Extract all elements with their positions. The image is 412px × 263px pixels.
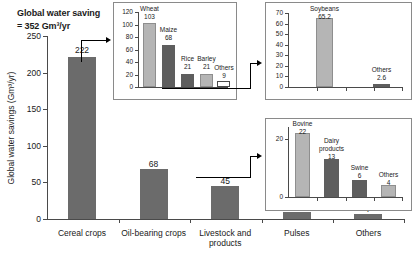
connector-cereal-vertical bbox=[81, 40, 82, 62]
oil-inset-ticklabel-0: 0 bbox=[279, 84, 283, 91]
main-y-ticklabel-150: 150 bbox=[27, 105, 41, 114]
main-y-ticklabel-50: 50 bbox=[32, 178, 41, 187]
main-value-oil-bearing-crops: 68 bbox=[149, 159, 158, 169]
livestock-inset-x-tick-2 bbox=[346, 198, 347, 201]
main-category-cereal-crops: Cereal crops bbox=[58, 228, 106, 238]
main-bar-pulses bbox=[283, 212, 311, 219]
oil-inset-ticklabel-20: 20 bbox=[276, 63, 283, 70]
cereal-inset-bar-barley bbox=[200, 74, 213, 87]
main-category-pulses: Pulses bbox=[284, 228, 310, 238]
oil-inset-tick-0 bbox=[285, 87, 288, 88]
main-y-tick-250 bbox=[43, 36, 47, 37]
livestock-inset-x-tick-4 bbox=[402, 198, 403, 201]
oil-inset-ticklabel-70: 70 bbox=[276, 10, 283, 17]
main-category-oil-bearing-crops: Oil-bearing crops bbox=[121, 228, 186, 238]
connector-oil-horizontal bbox=[162, 88, 250, 89]
livestock-and-products-inset: 0 20 Bovine 22 Dairy products 13 bbox=[265, 118, 412, 211]
connector-cereal-arrowhead bbox=[106, 37, 111, 43]
oil-inset-x-tick-2 bbox=[346, 88, 347, 91]
oil-inset-x-tick-3 bbox=[374, 88, 375, 91]
cereal-inset-tick-40 bbox=[135, 62, 138, 63]
livestock-inset-label-dairy-products: Dairy products 13 bbox=[319, 137, 344, 161]
livestock-inset-x-tick-1 bbox=[317, 198, 318, 201]
main-y-axis bbox=[47, 36, 48, 220]
oil-inset-tick-20 bbox=[285, 66, 288, 67]
connector-oil-arrowhead bbox=[257, 60, 262, 66]
oil-bearing-crops-inset-plot: 0 10 20 30 40 50 60 70 Soybeans bbox=[288, 13, 403, 91]
livestock-and-products-inset-plot: 0 20 Bovine 22 Dairy products 13 bbox=[288, 127, 403, 201]
livestock-inset-tick-20 bbox=[285, 139, 288, 140]
connector-livestock-arrowhead bbox=[257, 153, 262, 159]
cereal-inset-tick-0 bbox=[135, 87, 138, 88]
oil-inset-tick-60 bbox=[285, 24, 288, 25]
oil-inset-bar-soybeans bbox=[316, 18, 333, 87]
oil-inset-tick-50 bbox=[285, 34, 288, 35]
oil-inset-tick-10 bbox=[285, 76, 288, 77]
main-y-ticklabel-250: 250 bbox=[27, 32, 41, 41]
livestock-inset-label-bovine: Bovine 22 bbox=[293, 120, 313, 136]
main-y-axis-label: Global water savings (Gm³/yr) bbox=[6, 72, 16, 185]
livestock-inset-y-axis bbox=[288, 127, 289, 197]
oil-inset-bar-others bbox=[373, 84, 390, 87]
livestock-inset-label-others: Others 4 bbox=[379, 171, 399, 187]
cereal-inset-tick-20 bbox=[135, 75, 138, 76]
main-y-ticklabel-100: 100 bbox=[27, 142, 41, 151]
main-value-cereal-crops: 222 bbox=[75, 45, 89, 55]
cereal-inset-tick-60 bbox=[135, 50, 138, 51]
main-x-tick-4 bbox=[333, 220, 334, 223]
main-x-axis bbox=[47, 219, 405, 220]
main-bar-oil-bearing-crops bbox=[140, 169, 168, 219]
main-y-tick-50 bbox=[43, 182, 47, 183]
oil-inset-ticklabel-40: 40 bbox=[276, 41, 283, 48]
oil-inset-label-soybeans: Soybeans 65.2 bbox=[310, 5, 339, 21]
cereal-crops-inset-plot: 0 20 40 60 80 100 120 Wheat 103 bbox=[138, 12, 228, 90]
oil-inset-x-tick-1 bbox=[317, 88, 318, 91]
connector-oil-vertical bbox=[250, 63, 251, 89]
cereal-crops-inset: 0 20 40 60 80 100 120 Wheat 103 bbox=[113, 2, 237, 100]
livestock-inset-x-tick-3 bbox=[374, 198, 375, 201]
cereal-inset-label-maize: Maize 68 bbox=[160, 26, 177, 42]
main-y-ticklabel-200: 200 bbox=[27, 68, 41, 77]
cereal-inset-bar-maize bbox=[162, 45, 175, 88]
cereal-inset-ticklabel-100: 100 bbox=[122, 21, 133, 28]
livestock-inset-ticklabel-0: 0 bbox=[279, 194, 283, 201]
main-y-tick-0 bbox=[43, 219, 47, 220]
oil-inset-y-axis bbox=[288, 13, 289, 87]
main-bar-livestock-and-products bbox=[211, 186, 239, 219]
chart-title-line1: Global water saving bbox=[17, 7, 100, 20]
connector-livestock-horizontal bbox=[196, 177, 250, 178]
main-x-tick-2 bbox=[190, 220, 191, 223]
main-y-tick-100 bbox=[43, 146, 47, 147]
livestock-inset-bar-dairy-products bbox=[324, 159, 339, 197]
water-saving-figure: Global water saving = 352 Gm³/yr Global … bbox=[0, 0, 412, 263]
cereal-inset-label-rice: Rice 21 bbox=[181, 55, 194, 71]
oil-inset-tick-70 bbox=[285, 13, 288, 14]
cereal-inset-ticklabel-20: 20 bbox=[126, 71, 133, 78]
connector-livestock-vertical bbox=[250, 156, 251, 178]
oil-inset-tick-30 bbox=[285, 55, 288, 56]
cereal-inset-ticklabel-120: 120 bbox=[122, 9, 133, 16]
cereal-inset-bar-wheat bbox=[143, 23, 156, 87]
cereal-inset-ticklabel-40: 40 bbox=[126, 59, 133, 66]
main-category-others: Others bbox=[356, 228, 382, 238]
oil-inset-x-tick-4 bbox=[402, 88, 403, 91]
cereal-inset-ticklabel-80: 80 bbox=[126, 34, 133, 41]
main-x-tick-3 bbox=[262, 220, 263, 223]
livestock-inset-label-swine: Swine 6 bbox=[351, 164, 369, 180]
cereal-inset-label-barley: Barley 21 bbox=[197, 55, 215, 71]
cereal-inset-ticklabel-60: 60 bbox=[126, 46, 133, 53]
main-x-tick-1 bbox=[119, 220, 120, 223]
oil-inset-tick-40 bbox=[285, 45, 288, 46]
oil-inset-ticklabel-10: 10 bbox=[276, 73, 283, 80]
main-y-ticklabel-0: 0 bbox=[36, 215, 41, 224]
main-y-tick-200 bbox=[43, 73, 47, 74]
cereal-inset-tick-120 bbox=[135, 12, 138, 13]
cereal-inset-bar-others bbox=[217, 81, 230, 87]
oil-inset-ticklabel-60: 60 bbox=[276, 20, 283, 27]
livestock-inset-ticklabel-20: 20 bbox=[276, 135, 283, 142]
oil-bearing-crops-inset: 0 10 20 30 40 50 60 70 Soybeans bbox=[265, 2, 412, 100]
cereal-inset-bar-rice bbox=[181, 74, 194, 87]
main-bar-cereal-crops bbox=[68, 57, 96, 220]
main-y-tick-150 bbox=[43, 109, 47, 110]
chart-title: Global water saving = 352 Gm³/yr bbox=[17, 7, 100, 33]
